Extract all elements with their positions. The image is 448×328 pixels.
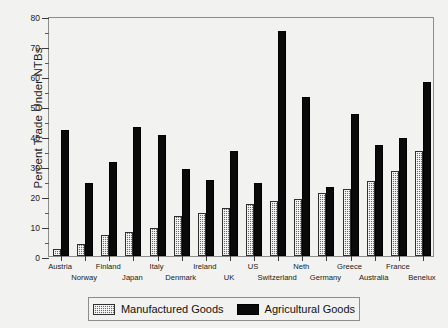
bar-manufactured [125,232,133,256]
bar-agricultural [351,114,359,257]
bar-group [49,18,73,256]
x-axis-label: Greece [337,262,362,271]
x-axis-tick [399,256,400,261]
bar-manufactured [101,235,109,256]
bar-group [194,18,218,256]
bar-agricultural [158,135,166,257]
y-axis-tick-major [42,78,49,79]
x-axis-labels: AustriaNorwayFinlandJapanItalyDenmarkIre… [48,262,434,296]
bar-group [218,18,242,256]
legend-label-agricultural: Agricultural Goods [265,303,356,315]
x-axis-tick [254,256,255,261]
y-axis-tick-label: 30 [31,163,40,173]
x-axis-tick [182,256,183,261]
y-axis-tick-label: 40 [31,133,40,143]
bar-manufactured [294,199,302,256]
y-axis-tick-major [42,168,49,169]
bar-agricultural [133,127,141,256]
x-axis-tick [278,256,279,261]
x-axis-tick [302,256,303,261]
bar-group [266,18,290,256]
legend-item-manufactured: Manufactured Goods [93,303,224,315]
y-axis-tick-major [42,228,49,229]
bar-agricultural [375,145,383,256]
bar-group [290,18,314,256]
x-axis-tick [423,256,424,261]
bar-manufactured [53,249,61,257]
bar-group [363,18,387,256]
y-axis-tick-major [42,258,49,259]
x-axis-label: Finland [96,262,121,271]
y-axis-tick-major [42,138,49,139]
x-axis-label: Denmark [165,273,196,282]
x-axis-label: Japan [122,273,143,282]
bar-agricultural [278,31,286,256]
bar-manufactured [391,171,399,257]
bar-group [146,18,170,256]
bar-manufactured [343,189,351,257]
bar-group [411,18,435,256]
bar-agricultural [61,130,69,256]
x-axis-label: Germany [310,273,341,282]
plot-area: 01020304050607080 [48,17,434,257]
x-axis-tick [85,256,86,261]
bar-agricultural [109,162,117,257]
bar-agricultural [326,187,334,256]
y-axis-tick-label: 60 [31,73,40,83]
x-axis-tick [133,256,134,261]
x-axis-label: Neth [293,262,309,271]
bar-group [73,18,97,256]
x-axis-tick [375,256,376,261]
crosshatch-swatch-icon [93,304,115,315]
bar-manufactured [270,201,278,257]
bar-group [339,18,363,256]
y-axis-tick-label: 70 [31,43,40,53]
bar-manufactured [174,216,182,257]
y-axis-tick-label: 10 [31,223,40,233]
y-axis-tick-major [42,198,49,199]
x-axis-label: Benelux [408,273,435,282]
x-axis-label: Ireland [193,262,216,271]
bar-group [314,18,338,256]
bars-layer [49,18,433,256]
chart-legend: Manufactured Goods Agricultural Goods [88,297,360,321]
bar-agricultural [423,82,431,256]
bar-agricultural [302,97,310,256]
bar-group [121,18,145,256]
x-axis-tick [326,256,327,261]
bar-agricultural [230,151,238,256]
bar-manufactured [415,151,423,256]
x-axis-label: France [386,262,410,271]
bar-manufactured [367,181,375,256]
x-axis-tick [158,256,159,261]
bar-agricultural [85,183,93,257]
x-axis-label: UK [224,273,235,282]
x-axis-label: US [248,262,259,271]
x-axis-label: Norway [71,273,97,282]
bar-manufactured [198,213,206,257]
bar-agricultural [399,138,407,257]
y-axis-tick-label: 50 [31,103,40,113]
x-axis-tick [61,256,62,261]
bar-group [387,18,411,256]
x-axis-label: Austria [48,262,72,271]
y-axis-tick-major [42,108,49,109]
x-axis-label: Italy [150,262,164,271]
bar-manufactured [318,193,326,256]
y-axis-tick-major [42,18,49,19]
x-axis-label: Switzerland [258,273,297,282]
bar-manufactured [246,204,254,257]
y-axis-tick-label: 80 [31,13,40,23]
bar-manufactured [77,244,85,256]
x-axis-label: Australia [359,273,389,282]
bar-chart: Percent Trade Under NTBs 010203040506070… [0,0,448,328]
legend-item-agricultural: Agricultural Goods [237,303,356,315]
bar-agricultural [206,180,214,257]
bar-manufactured [150,228,158,257]
x-axis-tick [230,256,231,261]
bar-agricultural [254,183,262,257]
legend-label-manufactured: Manufactured Goods [121,303,224,315]
bar-group [242,18,266,256]
bar-group [97,18,121,256]
x-axis-tick [206,256,207,261]
